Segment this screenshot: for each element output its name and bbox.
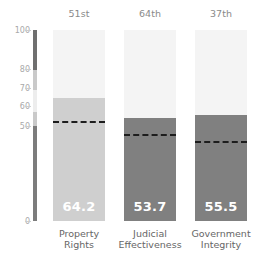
bar-value-label-0: 64.2 — [53, 199, 105, 214]
rank-label-0: 51st — [53, 8, 105, 19]
bar-chart: 51st 64th 37th 100 80 70 60 50 0 64.2 Pr… — [0, 0, 260, 258]
rank-label-row: 51st 64th 37th — [0, 8, 260, 24]
bar-2[interactable]: 55.5 — [195, 115, 247, 221]
bar-value-label-2: 55.5 — [195, 199, 247, 214]
reference-line-2 — [195, 141, 247, 143]
y-tick-mark-0 — [25, 221, 31, 222]
axis-spine-segment-5 — [33, 126, 37, 221]
axis-spine — [33, 30, 37, 221]
y-tick-mark-50 — [25, 126, 31, 127]
y-tick-mark-60 — [25, 106, 31, 107]
bar-0[interactable]: 64.2 — [53, 98, 105, 221]
y-tick-mark-70 — [25, 88, 31, 89]
rank-label-1: 64th — [124, 8, 176, 19]
axis-spine-segment-2 — [33, 70, 37, 90]
category-label-2: Government Integrity — [185, 228, 257, 250]
axis-spine-segment-1 — [33, 30, 37, 70]
category-label-0: Property Rights — [47, 228, 111, 250]
reference-line-1 — [124, 134, 176, 136]
rank-label-2: 37th — [195, 8, 247, 19]
axis-spine-segment-3 — [33, 90, 37, 112]
reference-line-0 — [53, 121, 105, 123]
y-tick-mark-80 — [25, 69, 31, 70]
category-label-1: Judicial Effectiveness — [114, 228, 186, 250]
bar-value-label-1: 53.7 — [124, 199, 176, 214]
y-tick-mark-100 — [25, 30, 31, 31]
axis-spine-segment-4 — [33, 112, 37, 126]
